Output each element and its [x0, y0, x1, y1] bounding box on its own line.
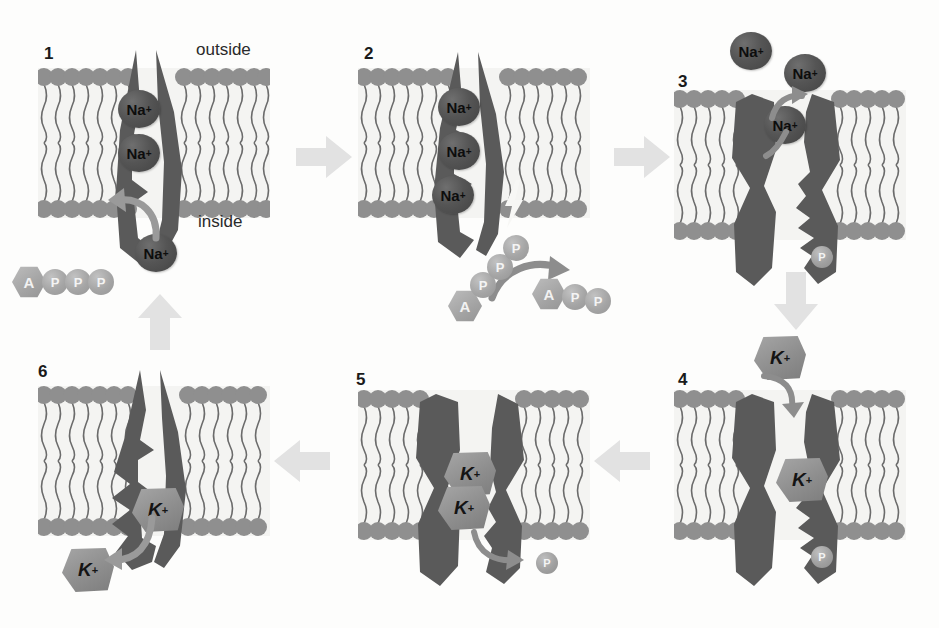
phosphate-2c: P — [503, 235, 529, 261]
flow-arrow-3-to-4 — [774, 272, 818, 330]
panel-step-6: 6 — [0, 330, 300, 620]
sodium-potassium-pump-diagram: 1 outside inside — [0, 0, 939, 628]
sodium-ion-bound-2c: Na+ — [432, 176, 474, 214]
phosphate-adp-2a: P — [562, 284, 588, 310]
panel-number-3: 3 — [678, 72, 687, 92]
label-outside-1: outside — [196, 40, 251, 60]
panel-number-4: 4 — [678, 370, 687, 390]
phosphate-attached-3: P — [811, 246, 833, 268]
phosphate-attached-4: P — [811, 546, 833, 568]
flow-arrow-1-to-2 — [296, 136, 352, 178]
potassium-binding-arrow-4 — [760, 372, 816, 420]
panel-step-1: 1 outside inside — [0, 28, 300, 318]
sodium-ion-released-3a: Na+ — [730, 32, 772, 70]
panel-number-6: 6 — [38, 362, 47, 382]
potassium-release-arrow-6 — [92, 516, 170, 572]
sodium-channel-arrow-3 — [760, 128, 800, 164]
panel-step-5: 5 — [320, 330, 620, 620]
sodium-exit-arrow-3 — [762, 86, 816, 130]
phosphate-released-5: P — [536, 552, 558, 574]
panel-step-4: 4 — [636, 330, 936, 620]
sodium-ion-bound-1a: Na+ — [118, 90, 160, 128]
flow-arrow-5-to-6 — [274, 440, 330, 482]
panel-number-5: 5 — [356, 370, 365, 390]
phosphate-release-arrow-5 — [468, 526, 540, 572]
panel-step-2: 2 — [320, 28, 620, 318]
sodium-binding-arrow-1 — [100, 178, 180, 248]
flow-arrow-2-to-3 — [614, 136, 670, 178]
panel-number-2: 2 — [364, 44, 373, 64]
flow-arrow-6-to-1 — [138, 294, 182, 350]
sodium-ion-bound-2b: Na+ — [438, 132, 480, 170]
panel-number-1: 1 — [44, 44, 53, 64]
phosphate-1c: P — [88, 269, 114, 295]
label-inside-1: inside — [198, 212, 242, 232]
phosphorylation-bolt-icon-2 — [503, 180, 525, 232]
sodium-ion-bound-1b: Na+ — [118, 134, 160, 172]
flow-arrow-4-to-5 — [594, 440, 650, 482]
phosphate-adp-2b: P — [585, 288, 611, 314]
sodium-ion-bound-2a: Na+ — [438, 88, 480, 126]
